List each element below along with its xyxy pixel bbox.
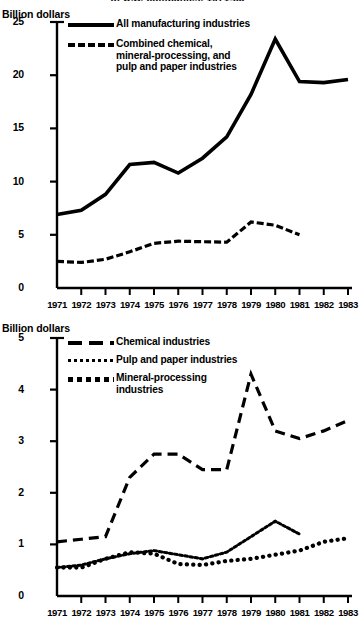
- small-dot-line-key-icon: [64, 354, 116, 367]
- y-axis-tick-label: 0: [2, 281, 24, 293]
- long-dash-line-key-icon: [64, 336, 116, 349]
- legend-item-pulp-paper: Pulp and paper industries: [64, 354, 237, 367]
- solid-line-key-icon: [64, 18, 116, 31]
- y-axis-tick-label: 10: [2, 175, 24, 187]
- y-axis-tick-label: 4: [2, 383, 24, 395]
- y-axis-tick-label: 5: [2, 228, 24, 240]
- legend-item-chemical: Chemical industries: [64, 336, 237, 349]
- y-axis-tick-label: 3: [2, 434, 24, 446]
- y-axis-tick-label: 5: [2, 331, 24, 343]
- top-chart-panel: All manufacturing industries Combined ch…: [0, 18, 355, 318]
- legend-label: Pulp and paper industries: [116, 354, 237, 366]
- figure-title-clipped: of U.S. companies, 1971-83: [0, 0, 355, 1]
- y-axis-tick-label: 0: [2, 589, 24, 601]
- big-dot-line-key-icon: [64, 372, 116, 385]
- series-line: [57, 521, 300, 567]
- legend-label: Chemical industries: [116, 336, 210, 348]
- series-line: [57, 374, 348, 542]
- top-chart-legend: All manufacturing industries Combined ch…: [64, 18, 250, 76]
- y-axis-tick-label: 15: [2, 121, 24, 133]
- legend-label: Mineral-processing industries: [116, 372, 207, 395]
- x-axis-tick-label: 1983: [333, 299, 363, 310]
- legend-label: All manufacturing industries: [116, 18, 250, 30]
- legend-item-combined: Combined chemical, mineral-processing, a…: [64, 38, 250, 73]
- series-line: [57, 222, 300, 262]
- y-axis-tick-label: 1: [2, 537, 24, 549]
- y-axis-tick-label: 2: [2, 486, 24, 498]
- series-line: [57, 538, 348, 567]
- legend-label: Combined chemical, mineral-processing, a…: [116, 38, 237, 73]
- bottom-chart-legend: Chemical industries Pulp and paper indus…: [64, 336, 237, 398]
- legend-item-all-manufacturing: All manufacturing industries: [64, 18, 250, 31]
- dashed-line-key-icon: [64, 38, 116, 51]
- x-axis-tick-label: 1983: [333, 607, 363, 618]
- bottom-chart-panel: Chemical industries Pulp and paper indus…: [0, 334, 355, 631]
- y-axis-tick-label: 25: [2, 15, 24, 27]
- y-axis-tick-label: 20: [2, 68, 24, 80]
- legend-item-mineral-processing: Mineral-processing industries: [64, 372, 237, 395]
